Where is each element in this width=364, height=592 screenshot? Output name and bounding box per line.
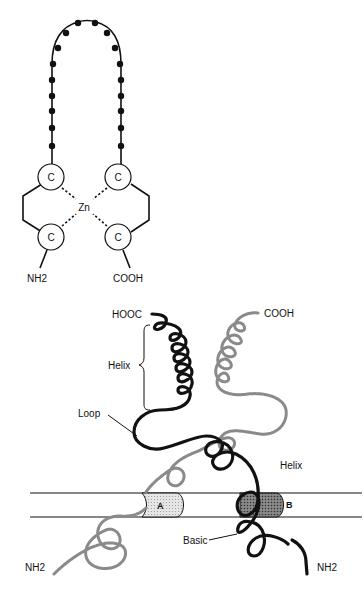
right-backbone-bridge xyxy=(131,184,149,232)
cysteine-top-right: C xyxy=(105,164,131,190)
zn-bond-bottom-left xyxy=(62,214,76,226)
zn-bond-bottom-right xyxy=(93,214,107,226)
cysteine-bottom-right: C xyxy=(105,224,131,250)
zn-bond-top-right xyxy=(93,188,107,199)
basic-label: Basic xyxy=(183,535,207,546)
binding-site-b xyxy=(240,493,284,517)
cysteine-bottom-left: C xyxy=(38,224,64,250)
binding-site-b-label: B xyxy=(286,500,293,510)
zinc-label: Zn xyxy=(78,202,90,213)
residue-beads xyxy=(49,20,124,149)
zn-bond-top-left xyxy=(62,188,76,199)
loop-label: Loop xyxy=(78,408,101,419)
n-terminal-tail xyxy=(40,250,47,268)
helix-loop-helix-diagram: A B COOH HOOC Helix Loop Helix Basic NH2… xyxy=(25,308,362,574)
binding-site-a-label: A xyxy=(157,501,164,511)
loop-leader-line xyxy=(108,415,137,436)
hlh-hooc-label: HOOC xyxy=(112,309,142,320)
zinc-finger-n-terminus-label: NH2 xyxy=(27,273,47,284)
helix-upper-label: Helix xyxy=(108,360,130,371)
c-terminal-tail xyxy=(123,250,130,268)
basic-leader-line xyxy=(209,534,237,540)
monomer-2-strand: COOH xyxy=(54,308,294,574)
helix-right-label: Helix xyxy=(280,460,302,471)
figure-canvas: C C C C Zn NH2 COOH A B C xyxy=(0,0,364,592)
nh2-right-label: NH2 xyxy=(317,562,337,573)
cysteine-top-left: C xyxy=(38,164,64,190)
zinc-finger-loop-backbone xyxy=(52,21,121,165)
monomer-1-strand: HOOC xyxy=(112,309,307,574)
svg-text:C: C xyxy=(114,232,121,243)
svg-text:C: C xyxy=(47,232,54,243)
zinc-finger-diagram: C C C C Zn NH2 COOH xyxy=(23,20,149,284)
nh2-left-label: NH2 xyxy=(25,562,45,573)
left-backbone-bridge xyxy=(23,184,42,232)
hlh-cooh-label: COOH xyxy=(264,308,294,319)
svg-text:C: C xyxy=(114,172,121,183)
zinc-finger-c-terminus-label: COOH xyxy=(113,273,143,284)
svg-text:C: C xyxy=(47,172,54,183)
helix-brace xyxy=(139,325,150,410)
